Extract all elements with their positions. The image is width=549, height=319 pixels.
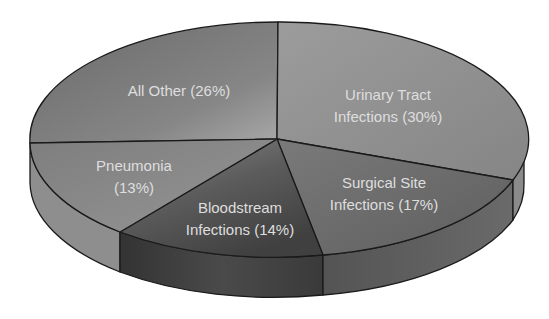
label-surgical-line1: Surgical Site bbox=[342, 174, 426, 191]
label-bloodstream-line1: Bloodstream bbox=[198, 199, 282, 216]
label-bloodstream-line2: Infections (14%) bbox=[186, 221, 294, 238]
label-urinary-line1: Urinary Tract bbox=[345, 86, 432, 103]
label-urinary-line2: Infections (30%) bbox=[334, 108, 442, 125]
pie-chart-3d: All Other (26%) Urinary Tract Infections… bbox=[0, 0, 549, 319]
label-pneumonia-line1: Pneumonia bbox=[96, 157, 173, 174]
label-pneumonia-line2: (13%) bbox=[114, 179, 154, 196]
label-surgical-line2: Infections (17%) bbox=[330, 196, 438, 213]
label-all-other: All Other (26%) bbox=[128, 82, 231, 99]
